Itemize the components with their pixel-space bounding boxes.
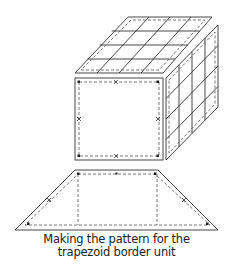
caption-line-2: trapezoid border unit (0, 246, 233, 259)
trapezoid-x-marks (47, 198, 186, 202)
cube-trapezoid-diagram (0, 0, 233, 269)
front-face-x-marks (77, 80, 160, 158)
cube-top-face (75, 17, 212, 73)
trapezoid-corner-marks (27, 173, 209, 226)
front-face-corner-marks (78, 81, 160, 158)
cube-front-face (75, 78, 163, 160)
trapezoid-pattern (15, 170, 218, 230)
